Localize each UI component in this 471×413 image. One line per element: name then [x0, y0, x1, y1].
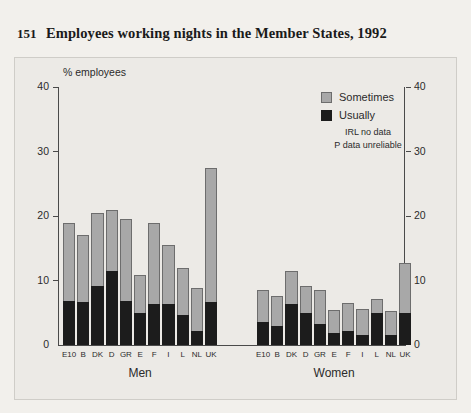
x-axis: [58, 345, 406, 346]
bar-men-gr: [120, 219, 132, 345]
legend-swatch-sometimes-icon: [321, 92, 332, 103]
y-tick-label-right: 20: [414, 209, 440, 221]
bar-segment-usually: [385, 335, 397, 345]
bar-women-uk: [399, 263, 411, 345]
y-tick-label-right: 30: [414, 145, 440, 157]
bar-women-b: [271, 296, 283, 345]
legend-note-p: P data unreliable: [321, 140, 415, 150]
bar-segment-usually: [120, 301, 132, 345]
bar-segment-usually: [285, 304, 297, 345]
bar-women-e: [328, 310, 340, 345]
y-axis-left: [58, 87, 59, 346]
y-tick-label-left: 20: [23, 209, 49, 221]
bar-segment-usually: [148, 304, 160, 345]
bar-segment-usually: [91, 286, 103, 345]
bar-men-f: [148, 223, 160, 345]
group-label-men: Men: [63, 366, 217, 380]
chart-panel: % employees 010203040 010203040 E10BDKDG…: [14, 57, 457, 400]
legend-item-usually: Usually: [321, 106, 415, 124]
bar-women-i: [356, 309, 368, 345]
bar-segment-usually: [106, 271, 118, 345]
y-axis-label: % employees: [63, 66, 126, 78]
bar-segment-usually: [371, 313, 383, 345]
bar-segment-usually: [342, 331, 354, 345]
bar-men-b: [77, 235, 89, 345]
x-tick-label-women-uk: UK: [393, 350, 417, 359]
legend-item-sometimes: Sometimes: [321, 88, 415, 106]
page-title: Employees working nights in the Member S…: [46, 25, 387, 42]
figure-number: 151: [17, 26, 37, 42]
y-tick-left: [53, 151, 58, 152]
bar-segment-usually: [257, 322, 269, 345]
legend-swatch-usually-icon: [321, 110, 332, 121]
bar-segment-usually: [314, 324, 326, 345]
bar-segment-usually: [300, 313, 312, 345]
y-tick-left: [53, 280, 58, 281]
bar-segment-usually: [134, 313, 146, 345]
bar-women-gr: [314, 290, 326, 345]
bar-women-dk: [285, 271, 297, 345]
y-tick-label-left: 40: [23, 80, 49, 92]
bar-men-e: [134, 275, 146, 345]
plot-area: % employees 010203040 010203040 E10BDKDG…: [15, 58, 458, 401]
bar-segment-usually: [191, 331, 203, 345]
y-tick-label-right: 40: [414, 80, 440, 92]
y-tick-right: [406, 216, 411, 217]
bar-segment-usually: [271, 326, 283, 345]
y-tick-label-right: 0: [414, 338, 440, 350]
y-tick-label-right: 10: [414, 274, 440, 286]
bar-segment-usually: [328, 333, 340, 345]
bar-men-uk: [205, 168, 217, 345]
legend: Sometimes Usually IRL no data P data unr…: [321, 88, 415, 150]
bar-segment-usually: [356, 335, 368, 345]
bar-segment-usually: [63, 301, 75, 346]
bar-women-f: [342, 303, 354, 345]
x-tick-label-men-uk: UK: [199, 350, 223, 359]
bar-men-dk: [91, 213, 103, 345]
bar-segment-usually: [399, 313, 411, 345]
bar-segment-usually: [177, 315, 189, 345]
y-tick-label-left: 30: [23, 145, 49, 157]
y-tick-right: [406, 151, 411, 152]
bar-men-nl: [191, 288, 203, 345]
bar-segment-usually: [162, 304, 174, 345]
group-label-women: Women: [257, 366, 411, 380]
bar-men-d: [106, 210, 118, 345]
legend-label-usually: Usually: [339, 109, 375, 121]
title-bar: 151 Employees working nights in the Memb…: [0, 0, 471, 57]
bar-segment-usually: [205, 302, 217, 345]
bar-men-i: [162, 245, 174, 345]
bar-women-nl: [385, 311, 397, 345]
bar-men-l: [177, 268, 189, 345]
figure-chart: 151 Employees working nights in the Memb…: [0, 0, 471, 413]
legend-label-sometimes: Sometimes: [339, 91, 394, 103]
y-tick-label-left: 0: [23, 338, 49, 350]
bar-women-d: [300, 286, 312, 345]
y-tick-label-left: 10: [23, 274, 49, 286]
y-tick-left: [53, 87, 58, 88]
y-tick-left: [53, 216, 58, 217]
legend-note-irl: IRL no data: [321, 127, 415, 137]
bar-women-e10: [257, 290, 269, 345]
bar-men-e10: [63, 223, 75, 345]
bar-women-l: [371, 299, 383, 345]
bar-segment-usually: [77, 302, 89, 345]
